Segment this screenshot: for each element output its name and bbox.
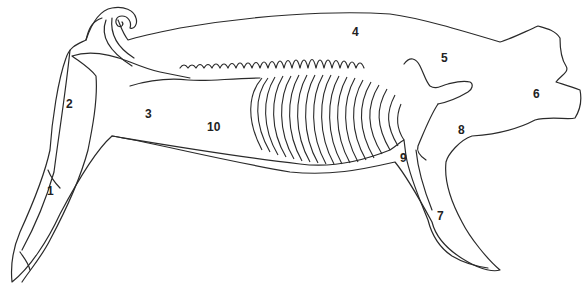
region-label-5: 5 <box>441 52 448 64</box>
belly-line <box>112 136 406 165</box>
region-label-2: 2 <box>66 98 73 110</box>
pig-diagram: 1 2 3 4 5 6 7 8 9 10 <box>0 0 584 288</box>
region-label-4: 4 <box>352 26 359 38</box>
region-label-3: 3 <box>145 108 152 120</box>
pig-outline-drawing <box>0 0 584 288</box>
front-leg-outline <box>406 150 488 268</box>
region-label-7: 7 <box>437 210 444 222</box>
tail-inner <box>104 18 134 66</box>
region-label-8: 8 <box>458 124 465 136</box>
region-label-6: 6 <box>533 88 540 100</box>
region-label-9: 9 <box>400 152 407 164</box>
spine-to-neck <box>404 59 472 104</box>
spine-upper <box>180 60 364 69</box>
shoulder-line <box>417 104 438 160</box>
leg-inner-lines <box>20 50 70 270</box>
region-label-10: 10 <box>207 121 220 133</box>
region-label-1: 1 <box>47 185 54 197</box>
ham-inner-outline <box>22 53 190 282</box>
loin-boundary <box>130 78 260 86</box>
rib-cage <box>251 75 404 164</box>
